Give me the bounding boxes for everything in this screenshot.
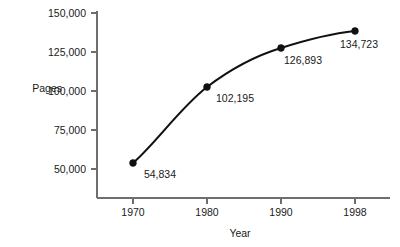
x-tick-label-1990: 1990 (269, 206, 293, 218)
y-axis-ticks (91, 13, 97, 169)
data-label-1970: 54,834 (144, 168, 176, 180)
x-axis-ticks (133, 198, 355, 204)
data-label-1980: 102,195 (216, 92, 254, 104)
y-tick-label-125000: 125,000 (48, 46, 86, 58)
data-label-1998: 134,723 (340, 38, 378, 50)
data-point-1990 (278, 45, 285, 52)
data-point-1970 (130, 160, 137, 167)
y-tick-label-50000: 50,000 (54, 163, 86, 175)
y-axis-title: Pages (32, 82, 62, 94)
x-tick-label-1980: 1980 (195, 206, 219, 218)
x-tick-label-1970: 1970 (121, 206, 145, 218)
y-tick-label-75000: 75,000 (54, 124, 86, 136)
y-tick-label-150000: 150,000 (48, 7, 86, 19)
chart-container: 150,000 125,000 100,000 75,000 50,000 19… (0, 0, 400, 247)
x-axis-tick-labels: 1970 1980 1990 1998 (121, 206, 367, 218)
line-chart: 150,000 125,000 100,000 75,000 50,000 19… (0, 0, 400, 247)
data-point-labels: 54,834 102,195 126,893 134,723 (144, 38, 378, 180)
x-axis-title: Year (229, 227, 251, 239)
x-tick-label-1998: 1998 (343, 206, 367, 218)
data-point-1980 (204, 84, 211, 91)
data-label-1990: 126,893 (284, 54, 322, 66)
data-point-1998 (352, 28, 359, 35)
